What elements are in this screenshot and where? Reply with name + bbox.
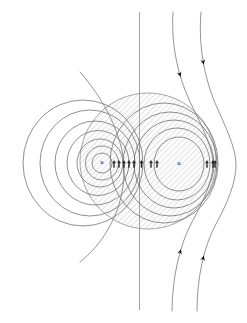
vortex-diagram-figure: ×× xyxy=(0,0,247,323)
left-vortex-center: × xyxy=(100,159,104,166)
streamline-outer-right-1-arrowhead-1 xyxy=(177,249,183,255)
vortex-diagram-canvas: ×× xyxy=(0,0,247,323)
right-vortex-center: × xyxy=(177,160,181,167)
streamline-outer-right-1-arrowhead-0 xyxy=(177,71,183,77)
